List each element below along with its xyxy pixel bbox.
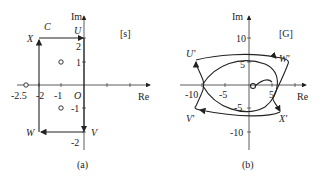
- im-label-b: Im: [232, 11, 243, 22]
- caption-b: (b): [242, 159, 254, 171]
- panel-b: Im Re [G] U' W' X' V' -10 -5 5 10 5 -5 -…: [180, 11, 309, 171]
- tick-y: 2: [76, 41, 81, 52]
- panel-a: Im Re [s] C U X W V O -2.5 -2 -1 2 1 -1 …: [11, 11, 150, 171]
- plane-label-g: [G]: [279, 28, 293, 39]
- corner-v: V: [91, 127, 99, 138]
- tick-x: -2: [36, 90, 44, 101]
- tick-y: -5: [234, 102, 242, 113]
- tick-y: 1: [76, 57, 81, 68]
- corner-x-prime: X': [278, 113, 288, 124]
- tick-y: -1: [71, 103, 79, 114]
- tick-x: -2.5: [11, 90, 27, 101]
- tick-x: -1: [54, 90, 62, 101]
- im-label-a: Im: [71, 11, 82, 22]
- tick-y: 5: [240, 59, 245, 70]
- tick-x: -5: [219, 89, 227, 100]
- tick-y: 10: [236, 33, 246, 44]
- tick-y: -2: [71, 137, 79, 148]
- zero-point: [24, 83, 28, 87]
- zero-point: [59, 106, 63, 110]
- re-label-b: Re: [297, 91, 309, 102]
- corner-u-prime: U': [186, 48, 196, 59]
- corner-u: U: [74, 25, 82, 36]
- corner-w-prime: W': [279, 53, 290, 64]
- corner-v-prime: V': [186, 113, 195, 124]
- tick-x: -10: [185, 89, 198, 100]
- corner-x: X: [26, 33, 34, 44]
- origin-label: O: [74, 90, 81, 101]
- re-label-a: Re: [138, 91, 150, 102]
- corner-w: W: [26, 127, 36, 138]
- tick-y: -10: [230, 127, 243, 138]
- plane-label-s: [s]: [120, 28, 131, 39]
- diagram: Im Re [s] C U X W V O -2.5 -2 -1 2 1 -1 …: [0, 0, 323, 185]
- contour-label: C: [44, 21, 51, 32]
- zero-point: [59, 60, 63, 64]
- caption-a: (a): [77, 159, 88, 171]
- tick-x: 5: [269, 89, 274, 100]
